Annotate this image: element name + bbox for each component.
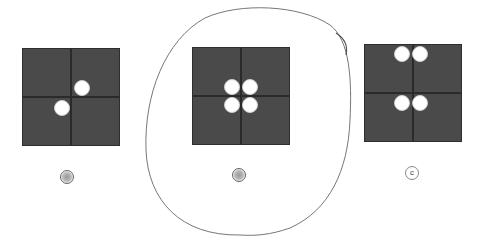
hand-drawn-selection-circle xyxy=(0,0,478,238)
